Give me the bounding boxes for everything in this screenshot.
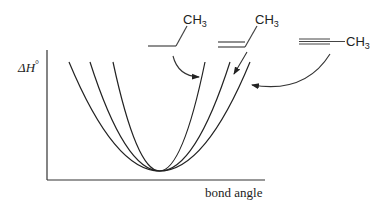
molecule-alkyne [299, 39, 345, 44]
curve-middle [90, 62, 230, 171]
curve-inner [113, 62, 205, 171]
y-axis-label: ΔH° [17, 59, 39, 75]
molecule-alkene [218, 26, 257, 47]
molecule-alkane [148, 26, 187, 46]
x-axis-label: bond angle [205, 185, 263, 200]
arrow-alkene-to-middle [234, 52, 247, 74]
alkyne-ch3-label: CH3 [346, 34, 370, 51]
bond-angle-diagram: ΔH° bond angle CH3 CH3 CH3 [0, 0, 385, 211]
arrow-alkane-to-inner [173, 56, 199, 77]
arrow-alkyne-to-outer [252, 54, 330, 87]
arrows [173, 52, 330, 87]
energy-curves [69, 62, 250, 171]
alkene-ch3-label: CH3 [255, 12, 279, 29]
axes [47, 50, 265, 180]
alkane-ch3-label: CH3 [183, 12, 207, 29]
curve-outer [69, 62, 250, 171]
